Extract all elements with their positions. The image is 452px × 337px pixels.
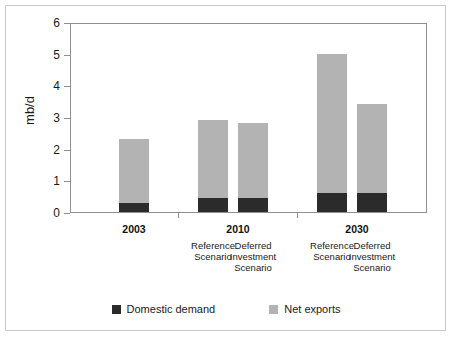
legend-label: Domestic demand: [127, 303, 216, 315]
bar-2010-0: [198, 120, 228, 212]
bar-2010-1: [238, 123, 268, 212]
y-tick-label: 0: [36, 207, 60, 219]
x-axis-group-separator: [297, 213, 298, 218]
y-tick-label: 5: [36, 49, 60, 61]
chart-figure: mb/d 6543210 200320102030ReferenceScenar…: [0, 0, 452, 337]
y-tick-label: 6: [36, 17, 60, 29]
bar-2003-0: [119, 139, 149, 212]
x-scenario-label-line: Scenario: [343, 262, 401, 273]
legend-label: Net exports: [284, 303, 340, 315]
x-scenario-label-line: Deferred: [343, 240, 401, 251]
y-tick-label: 2: [36, 144, 60, 156]
bar-segment-domestic-demand: [317, 193, 347, 212]
legend-swatch-icon: [112, 305, 121, 314]
bars-layer: [71, 22, 426, 212]
x-scenario-label-line: Deferred: [224, 240, 282, 251]
x-axis-group-separator: [178, 213, 179, 218]
x-group-label-2010: 2010: [198, 224, 278, 235]
legend-item: Domestic demand: [112, 303, 216, 315]
bar-segment-net-exports: [238, 123, 268, 197]
y-tick-label: 4: [36, 80, 60, 92]
x-scenario-label-line: Investment: [224, 251, 282, 262]
bar-segment-domestic-demand: [198, 198, 228, 212]
y-tick-label-wrap: 4: [34, 80, 60, 92]
plot-area: [70, 23, 427, 213]
bar-segment-domestic-demand: [238, 198, 268, 212]
y-tick-label-wrap: 3: [34, 112, 60, 124]
y-tick-label-wrap: 1: [34, 175, 60, 187]
x-scenario-label: DeferredInvestmentScenario: [343, 240, 401, 273]
y-tick-label-wrap: 5: [34, 49, 60, 61]
y-tick-label: 3: [36, 112, 60, 124]
bar-segment-net-exports: [317, 54, 347, 193]
legend-swatch-icon: [269, 305, 278, 314]
chart-legend: Domestic demandNet exports: [0, 303, 452, 315]
y-tick-label-wrap: 0: [34, 207, 60, 219]
x-scenario-label-line: Scenario: [224, 262, 282, 273]
y-tick-label-wrap: 2: [34, 144, 60, 156]
y-tick-label: 1: [36, 175, 60, 187]
x-scenario-label: DeferredInvestmentScenario: [224, 240, 282, 273]
legend-item: Net exports: [269, 303, 340, 315]
bar-2030-1: [357, 104, 387, 212]
bar-segment-domestic-demand: [119, 203, 149, 213]
bar-segment-net-exports: [198, 120, 228, 198]
y-tick-mark: [64, 213, 70, 214]
x-scenario-label-line: Investment: [343, 251, 401, 262]
bar-segment-net-exports: [119, 139, 149, 202]
y-tick-label-wrap: 6: [34, 17, 60, 29]
bar-2030-0: [317, 54, 347, 212]
bar-segment-domestic-demand: [357, 193, 387, 212]
x-group-label-2003: 2003: [94, 224, 174, 235]
bar-segment-net-exports: [357, 104, 387, 193]
x-group-label-2030: 2030: [317, 224, 397, 235]
